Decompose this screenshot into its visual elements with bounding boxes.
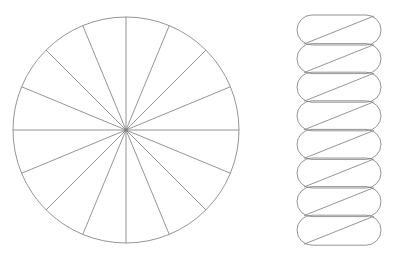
figure-root — [0, 0, 393, 257]
geometry-figure — [0, 0, 393, 257]
sectored-circle — [13, 17, 239, 243]
